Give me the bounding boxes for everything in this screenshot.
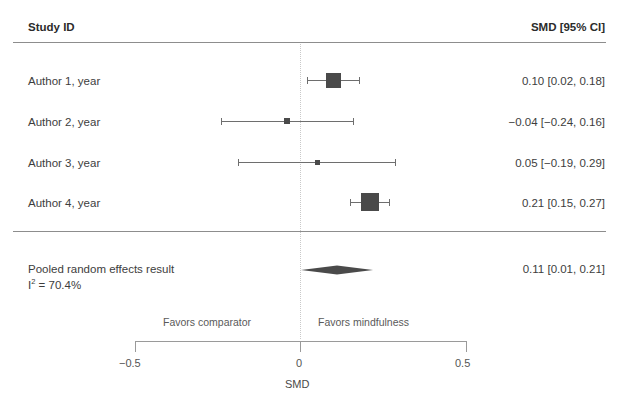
point-estimate-marker: [326, 73, 341, 88]
column-header-effect: SMD [95% CI]: [531, 20, 605, 34]
x-axis-tick-max: [466, 341, 467, 352]
ci-cap-left: [350, 199, 351, 206]
forest-plot: Study ID SMD [95% CI] Author 1, year 0.1…: [0, 0, 619, 416]
pooled-effect-value: 0.11 [0.01, 0.21]: [523, 262, 605, 276]
x-axis-tick-zero: [300, 341, 301, 352]
column-header-study: Study ID: [28, 20, 75, 34]
ci-cap-left: [307, 77, 308, 84]
effect-value: 0.21 [0.15, 0.27]: [522, 196, 605, 210]
ci-cap-right: [359, 77, 360, 84]
favors-comparator-label: Favors comparator: [163, 316, 251, 328]
favors-mindfulness-label: Favors mindfulness: [318, 316, 409, 328]
pooled-divider: [13, 231, 606, 232]
point-estimate-marker: [315, 160, 320, 165]
null-effect-reference-line: [300, 44, 301, 339]
study-label: Author 4, year: [28, 196, 100, 210]
x-axis-tick-label-min: −0.5: [119, 357, 141, 369]
pooled-diamond-marker: [301, 264, 373, 276]
header-divider: [13, 42, 606, 43]
effect-value: 0.05 [−0.19, 0.29]: [515, 156, 605, 170]
point-estimate-marker: [284, 118, 290, 124]
ci-cap-left: [238, 159, 239, 166]
ci-cap-left: [221, 118, 222, 125]
x-axis-tick-label-zero: 0: [296, 357, 302, 369]
study-label: Author 1, year: [28, 74, 100, 88]
ci-cap-right: [353, 118, 354, 125]
study-label: Author 3, year: [28, 156, 100, 170]
point-estimate-marker: [361, 193, 379, 211]
ci-cap-right: [395, 159, 396, 166]
ci-cap-right: [389, 199, 390, 206]
i-squared-value: = 70.4%: [35, 279, 81, 291]
study-label: Author 2, year: [28, 115, 100, 129]
heterogeneity-label: I2 = 70.4%: [28, 277, 81, 292]
x-axis-tick-label-max: 0.5: [455, 357, 470, 369]
effect-value: 0.10 [0.02, 0.18]: [522, 74, 605, 88]
x-axis-title: SMD: [285, 378, 309, 390]
pooled-label: Pooled random effects result: [28, 262, 174, 276]
effect-value: −0.04 [−0.24, 0.16]: [508, 115, 605, 129]
x-axis-tick-min: [135, 341, 136, 352]
